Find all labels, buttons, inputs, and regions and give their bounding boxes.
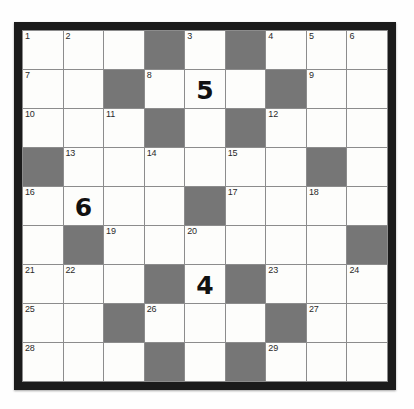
crossword-block-cell — [104, 304, 144, 342]
crossword-cell[interactable]: 13 — [64, 148, 104, 186]
crossword-cell[interactable]: 14 — [145, 148, 185, 186]
crossword-cell[interactable] — [307, 265, 347, 303]
cell-number: 13 — [66, 148, 76, 159]
cell-number: 10 — [25, 109, 35, 120]
crossword-cell[interactable] — [104, 148, 144, 186]
crossword-block-cell — [226, 343, 266, 381]
cell-number: 6 — [349, 31, 354, 42]
crossword-cell[interactable]: 25 — [23, 304, 63, 342]
crossword-cell[interactable] — [64, 343, 104, 381]
cell-number: 16 — [25, 187, 35, 198]
crossword-cell[interactable]: 12 — [266, 109, 306, 147]
cell-number: 11 — [106, 109, 115, 120]
crossword-cell[interactable]: 7 — [23, 70, 63, 108]
crossword-cell[interactable]: 4 — [266, 31, 306, 69]
cell-number: 20 — [187, 226, 197, 237]
crossword-block-cell — [104, 70, 144, 108]
cell-number: 18 — [309, 187, 319, 198]
crossword-cell[interactable] — [185, 148, 225, 186]
crossword-cell[interactable] — [347, 343, 387, 381]
crossword-block-cell — [64, 226, 104, 264]
cell-number: 5 — [309, 31, 314, 42]
crossword-cell[interactable] — [347, 304, 387, 342]
crossword-cell[interactable]: 19 — [104, 226, 144, 264]
crossword-cell[interactable] — [347, 109, 387, 147]
cell-number: 24 — [349, 265, 359, 276]
crossword-block-cell — [145, 109, 185, 147]
crossword-cell[interactable] — [23, 226, 63, 264]
crossword-cell[interactable]: 23 — [266, 265, 306, 303]
crossword-cell[interactable]: 10 — [23, 109, 63, 147]
crossword-grid[interactable]: 1234567859101112131415166171819202122423… — [22, 30, 388, 382]
crossword-block-cell — [226, 109, 266, 147]
crossword-cell[interactable]: 2 — [64, 31, 104, 69]
crossword-cell[interactable] — [266, 226, 306, 264]
crossword-cell[interactable] — [104, 265, 144, 303]
crossword-cell[interactable] — [64, 109, 104, 147]
cell-number: 7 — [25, 70, 30, 81]
crossword-cell[interactable] — [347, 187, 387, 225]
cell-number: 28 — [25, 343, 35, 354]
cell-number: 2 — [66, 31, 71, 42]
crossword-cell[interactable]: 24 — [347, 265, 387, 303]
crossword-cell[interactable] — [307, 226, 347, 264]
cell-number: 25 — [25, 304, 35, 315]
crossword-cell[interactable] — [145, 226, 185, 264]
cell-number: 17 — [228, 187, 238, 198]
crossword-cell[interactable] — [145, 187, 185, 225]
crossword-cell[interactable] — [266, 148, 306, 186]
crossword-cell[interactable] — [226, 70, 266, 108]
crossword-cell[interactable]: 21 — [23, 265, 63, 303]
crossword-cell[interactable]: 15 — [226, 148, 266, 186]
crossword-cell[interactable]: 8 — [145, 70, 185, 108]
crossword-cell[interactable] — [104, 343, 144, 381]
crossword-cell[interactable] — [185, 304, 225, 342]
cell-number: 9 — [309, 70, 314, 81]
crossword-cell[interactable]: 16 — [23, 187, 63, 225]
crossword-cell[interactable] — [226, 226, 266, 264]
crossword-cell[interactable]: 3 — [185, 31, 225, 69]
crossword-cell[interactable] — [307, 343, 347, 381]
crossword-cell[interactable]: 27 — [307, 304, 347, 342]
crossword-cell[interactable]: 6 — [64, 187, 104, 225]
crossword-cell[interactable]: 1 — [23, 31, 63, 69]
crossword-block-cell — [226, 31, 266, 69]
crossword-cell[interactable] — [307, 109, 347, 147]
crossword-cell[interactable] — [185, 109, 225, 147]
cell-number: 21 — [25, 265, 35, 276]
cell-number: 1 — [25, 31, 30, 42]
cell-entry: 5 — [185, 70, 225, 108]
crossword-cell[interactable] — [347, 148, 387, 186]
crossword-cell[interactable] — [64, 70, 104, 108]
crossword-block-cell — [307, 148, 347, 186]
crossword-cell[interactable]: 28 — [23, 343, 63, 381]
crossword-cell[interactable]: 5 — [307, 31, 347, 69]
crossword-cell[interactable] — [226, 304, 266, 342]
crossword-cell[interactable]: 11 — [104, 109, 144, 147]
crossword-cell[interactable]: 18 — [307, 187, 347, 225]
crossword-cell[interactable]: 5 — [185, 70, 225, 108]
cell-number: 19 — [106, 226, 116, 237]
cell-number: 27 — [309, 304, 319, 315]
crossword-block-cell — [145, 265, 185, 303]
crossword-cell[interactable]: 22 — [64, 265, 104, 303]
crossword-cell[interactable] — [104, 187, 144, 225]
crossword-cell[interactable]: 29 — [266, 343, 306, 381]
crossword-cell[interactable] — [347, 70, 387, 108]
crossword-block-cell — [145, 31, 185, 69]
crossword-cell[interactable]: 17 — [226, 187, 266, 225]
crossword-cell[interactable]: 4 — [185, 265, 225, 303]
cell-number: 8 — [147, 70, 152, 81]
crossword-cell[interactable]: 20 — [185, 226, 225, 264]
crossword-cell[interactable]: 26 — [145, 304, 185, 342]
cell-number: 26 — [147, 304, 157, 315]
cell-number: 12 — [268, 109, 278, 120]
crossword-block-cell — [347, 226, 387, 264]
crossword-cell[interactable] — [185, 343, 225, 381]
crossword-cell[interactable]: 9 — [307, 70, 347, 108]
crossword-cell[interactable] — [104, 31, 144, 69]
crossword-cell[interactable] — [64, 304, 104, 342]
crossword-block-cell — [266, 304, 306, 342]
crossword-cell[interactable] — [266, 187, 306, 225]
crossword-cell[interactable]: 6 — [347, 31, 387, 69]
